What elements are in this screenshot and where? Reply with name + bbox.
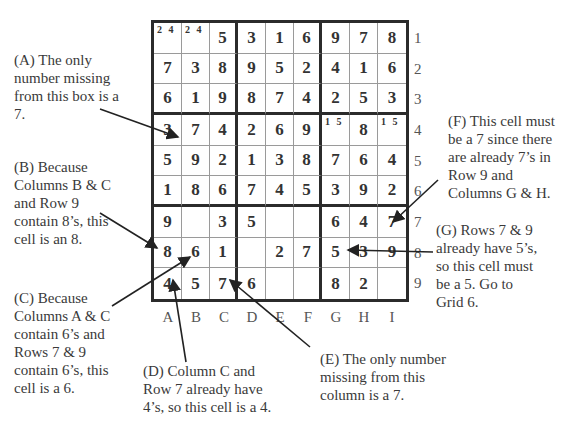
arrow-g bbox=[348, 250, 433, 252]
arrow-b bbox=[100, 213, 157, 248]
arrow-a bbox=[100, 109, 178, 137]
arrow-d bbox=[173, 280, 186, 362]
arrow-e bbox=[230, 280, 310, 347]
annotation-arrows bbox=[0, 0, 575, 427]
arrow-c bbox=[112, 257, 190, 306]
arrow-f bbox=[393, 180, 438, 222]
